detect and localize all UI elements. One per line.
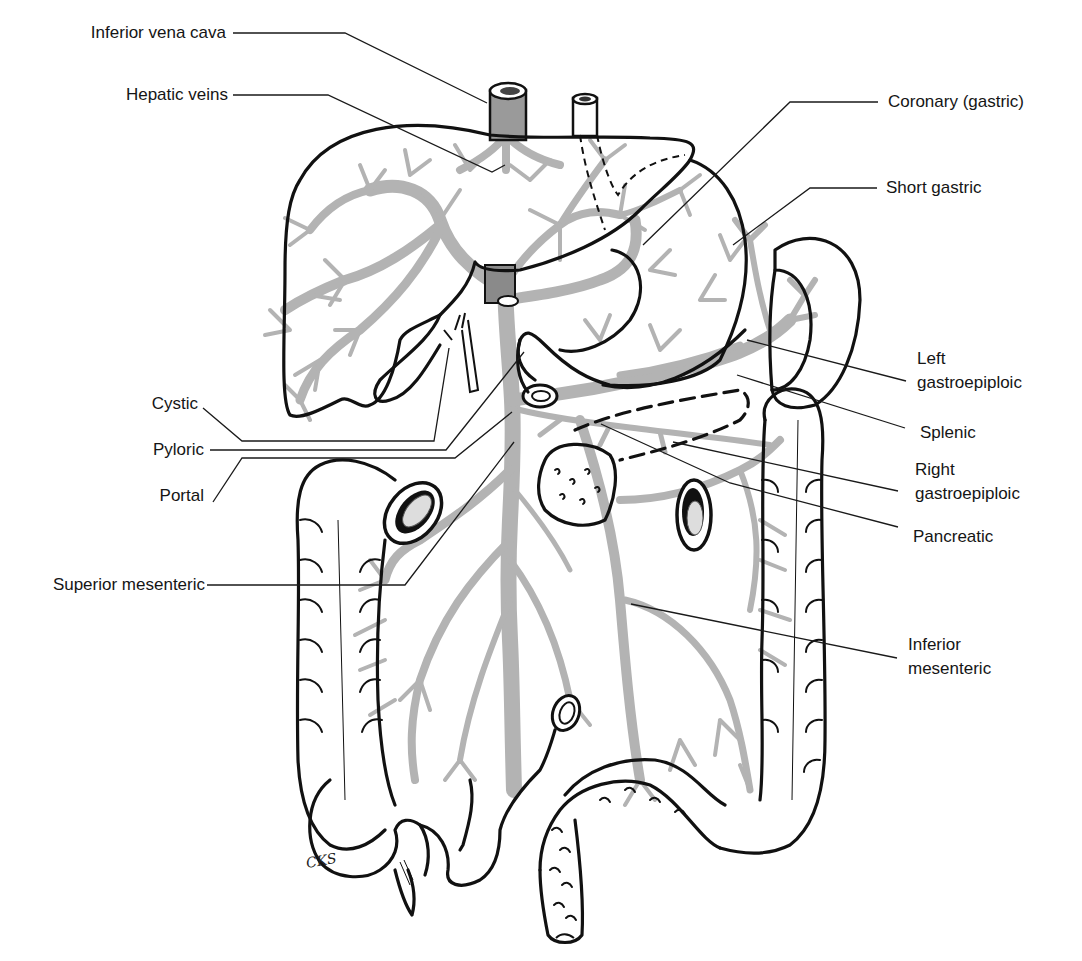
cystic-duct — [444, 313, 478, 392]
label-right-gastroepiploic-line1: Right — [915, 459, 1020, 480]
label-left-gastroepiploic-line1: Left — [917, 348, 1022, 369]
label-coronary-gastric: Coronary (gastric) — [888, 91, 1024, 112]
ascending-colon — [297, 460, 395, 849]
label-inferior-mesenteric-line2: mesenteric — [908, 658, 991, 679]
label-right-gastroepiploic: Right gastroepiploic — [915, 459, 1020, 504]
label-pyloric: Pyloric — [30, 439, 204, 460]
label-cystic: Cystic — [30, 393, 198, 414]
label-inferior-mesenteric-line1: Inferior — [908, 634, 991, 655]
leader-lines — [203, 33, 906, 658]
artist-signature: CKS — [305, 850, 338, 871]
terminal-ileum — [420, 730, 555, 885]
leader-portal — [213, 412, 512, 502]
label-hepatic-veins: Hepatic veins — [30, 84, 228, 105]
label-right-gastroepiploic-line2: gastroepiploic — [915, 483, 1020, 504]
descending-colon — [720, 389, 825, 853]
label-left-gastroepiploic: Left gastroepiploic — [917, 348, 1022, 393]
label-left-gastroepiploic-line2: gastroepiploic — [917, 372, 1022, 393]
leader-inferior-vena-cava — [233, 33, 487, 103]
portal-vein-tree — [265, 100, 815, 805]
label-portal: Portal — [30, 485, 204, 506]
portal-venous-system-diagram: CKS Inferior vena cava Hepatic veins Cys… — [0, 0, 1082, 961]
leader-pyloric — [210, 352, 524, 450]
label-short-gastric: Short gastric — [886, 177, 981, 198]
label-superior-mesenteric: Superior mesenteric — [0, 574, 205, 595]
label-inferior-mesenteric: Inferior mesenteric — [908, 634, 991, 679]
pylorus-stump — [523, 385, 557, 407]
label-splenic: Splenic — [920, 422, 976, 443]
ileum-stump — [548, 692, 585, 735]
label-inferior-vena-cava: Inferior vena cava — [30, 22, 226, 43]
esophagus-stump — [573, 94, 597, 136]
transverse-colon-cut-left — [677, 480, 711, 550]
label-pancreatic: Pancreatic — [913, 526, 993, 547]
ivc-stump — [490, 83, 526, 140]
